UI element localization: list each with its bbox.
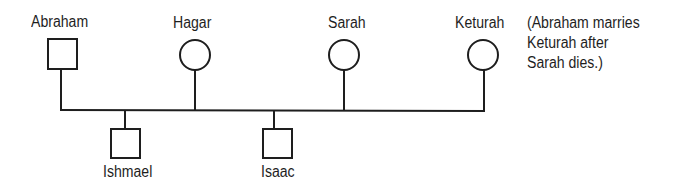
hagar-label: Hagar xyxy=(173,14,211,32)
sarah-label: Sarah xyxy=(328,14,366,32)
marriage-line xyxy=(60,110,485,111)
note-line-3: Sarah dies.) xyxy=(527,53,640,73)
sarah-symbol xyxy=(329,40,359,70)
isaac-label: Isaac xyxy=(261,163,295,181)
ishmael-symbol xyxy=(111,129,140,158)
note-line-2: Keturah after xyxy=(527,33,640,53)
keturah-symbol xyxy=(468,40,498,70)
ishmael-label: Ishmael xyxy=(103,163,152,181)
hagar-symbol xyxy=(180,40,210,70)
abraham-label: Abraham xyxy=(31,13,88,31)
isaac-symbol xyxy=(263,129,292,158)
keturah-label: Keturah xyxy=(455,14,504,32)
note-line-1: (Abraham marries xyxy=(527,13,640,33)
abraham-symbol xyxy=(48,39,77,69)
marriage-note: (Abraham marries Keturah after Sarah die… xyxy=(527,13,640,73)
